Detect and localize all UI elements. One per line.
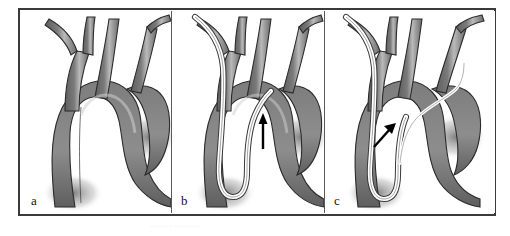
panel-a-illustration xyxy=(21,11,171,213)
aorta-group-a xyxy=(43,15,171,212)
left-subclavian-artery-b xyxy=(283,27,309,93)
brachiocephalic-trunk-a xyxy=(65,51,89,111)
panel-divider-2 xyxy=(324,11,325,213)
figure-container: a xyxy=(0,0,510,236)
panel-label-c: c xyxy=(334,194,340,207)
right-subclavian-artery-a xyxy=(45,19,77,55)
direction-arrow-b xyxy=(259,113,268,149)
panel-label-a: a xyxy=(31,194,37,207)
direction-arrow-c xyxy=(374,123,396,147)
panel-c: c xyxy=(324,11,495,213)
panel-c-illustration xyxy=(324,11,495,213)
right-common-carotid-artery-b xyxy=(235,17,247,55)
panel-a: a xyxy=(21,11,171,213)
left-subclavian-artery-a xyxy=(131,27,157,93)
panel-b-illustration xyxy=(171,11,324,213)
left-subclavian-branch-b xyxy=(299,15,323,33)
figure-frame-inner-border: a xyxy=(20,10,494,214)
panel-b: b xyxy=(171,11,324,213)
right-common-carotid-artery-a xyxy=(83,17,95,55)
right-common-carotid-artery-c xyxy=(386,17,398,55)
left-subclavian-branch-a xyxy=(147,15,171,33)
panel-divider-1 xyxy=(171,11,172,213)
figure-frame: a xyxy=(18,8,496,216)
caption-ghost-text: ........ ......... xyxy=(150,219,380,233)
panel-label-b: b xyxy=(181,194,188,207)
left-subclavian-branch-c xyxy=(456,15,484,33)
